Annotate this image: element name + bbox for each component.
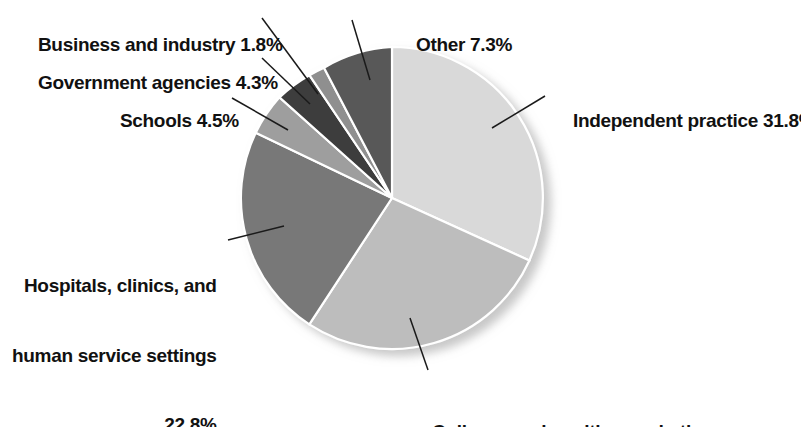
- pie-label-hospitals-line3: 22.8%: [12, 413, 217, 427]
- pie-label-colleges-line1: Colleges, universities, and other: [432, 420, 715, 427]
- pie-label-hospitals-line2: human service settings: [12, 344, 217, 367]
- pie-label-colleges-universities: Colleges, universities, and other academ…: [432, 374, 715, 427]
- pie-label-independent-practice: Independent practice 31.8%: [553, 86, 801, 156]
- pie-slices-group: [241, 47, 543, 349]
- pie-chart-figure: Business and industry 1.8% Government ag…: [0, 0, 801, 427]
- pie-label-hospitals-line1: Hospitals, clinics, and: [12, 274, 217, 297]
- pie-label-hospitals-clinics: Hospitals, clinics, and human service se…: [12, 228, 217, 427]
- pie-label-other: Other 7.3%: [396, 10, 512, 80]
- pie-label-schools: Schools 4.5%: [100, 86, 239, 156]
